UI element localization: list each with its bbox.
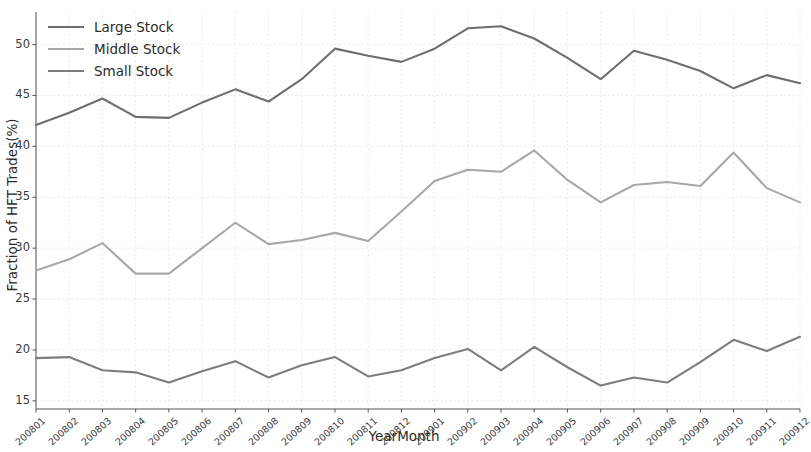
series-line-middle-stock [36,150,800,273]
legend-item-small-stock: Small Stock [48,60,180,82]
legend-item-middle-stock: Middle Stock [48,38,180,60]
y-tick-label: 40 [0,138,30,152]
legend-label-large-stock: Large Stock [94,19,174,35]
y-tick-label: 15 [0,393,30,407]
legend-item-large-stock: Large Stock [48,16,180,38]
legend-swatch-middle-stock [48,48,84,50]
y-tick-label: 45 [0,87,30,101]
y-tick-label: 30 [0,240,30,254]
legend-swatch-large-stock [48,26,84,28]
chart-legend: Large Stock Middle Stock Small Stock [44,14,186,85]
y-tick-marks [33,45,37,401]
y-tick-label: 50 [0,37,30,51]
legend-label-small-stock: Small Stock [94,63,173,79]
y-tick-label: 25 [0,291,30,305]
series-line-small-stock [36,337,800,386]
x-axis-label: YearMonth [0,428,808,444]
legend-swatch-small-stock [48,70,84,72]
y-tick-label: 20 [0,342,30,356]
legend-label-middle-stock: Middle Stock [94,41,180,57]
x-tick-marks [36,409,800,413]
y-tick-label: 35 [0,189,30,203]
